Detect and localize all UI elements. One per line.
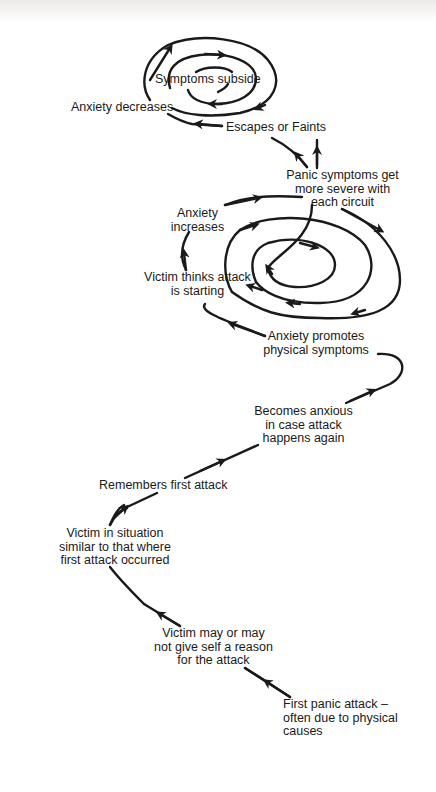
node-line: is starting — [135, 285, 260, 299]
node-line: similar to that where — [50, 541, 180, 555]
node-line: Escapes or Faints — [226, 121, 326, 135]
node-line: each circuit — [280, 196, 405, 210]
node-anxious: Becomes anxious in case attack happens a… — [246, 405, 361, 446]
node-line: Victim thinks attack — [135, 271, 260, 285]
node-line: Victim may or may — [131, 627, 296, 641]
node-line: Symptoms subside — [155, 73, 261, 87]
cycle-arrows — [0, 0, 436, 792]
node-increases: Anxiety increases — [165, 207, 230, 234]
node-subside: Symptoms subside — [155, 73, 261, 87]
node-line: for the attack — [131, 654, 296, 668]
node-line: Becomes anxious — [246, 405, 361, 419]
node-line: physical symptoms — [256, 344, 376, 358]
node-decreases: Anxiety decreases — [71, 101, 173, 115]
node-line: Anxiety — [165, 207, 230, 221]
node-line: increases — [165, 221, 230, 235]
arrow-anxious-to-promotes — [346, 354, 402, 403]
node-reason: Victim may or may not give self a reason… — [131, 627, 296, 668]
node-line: often due to physical — [283, 712, 398, 726]
arrow-severe-to-escapes — [272, 138, 307, 167]
node-promotes: Anxiety promotes physical symptoms — [256, 330, 376, 357]
node-first-panic-attack: First panic attack – often due to physic… — [283, 698, 398, 739]
node-line: not give self a reason — [131, 641, 296, 655]
arrow-inner-to-severe — [268, 205, 312, 268]
node-situation: Victim in situation similar to that wher… — [50, 527, 180, 568]
node-line: Anxiety promotes — [256, 330, 376, 344]
node-line: Victim in situation — [50, 527, 180, 541]
node-line: Panic symptoms get — [280, 169, 405, 183]
node-line: First panic attack – — [283, 698, 398, 712]
node-line: in case attack — [246, 419, 361, 433]
node-line: first attack occurred — [50, 554, 180, 568]
node-line: happens again — [246, 432, 361, 446]
node-line: Anxiety decreases — [71, 101, 173, 115]
node-remembers: Remembers first attack — [99, 479, 228, 493]
node-thinks: Victim thinks attack is starting — [135, 271, 260, 298]
spiral-inner — [252, 240, 335, 287]
node-line: causes — [283, 725, 398, 739]
node-escapes-faints: Escapes or Faints — [226, 121, 326, 135]
node-line: more severe with — [280, 183, 405, 197]
node-severe: Panic symptoms get more severe with each… — [280, 169, 405, 210]
node-line: Remembers first attack — [99, 479, 228, 493]
